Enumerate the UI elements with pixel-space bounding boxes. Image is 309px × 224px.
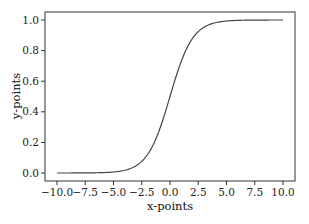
y-tick-label: 0.0 xyxy=(22,167,39,179)
x-tick-label: −5.0 xyxy=(101,186,127,198)
x-tick-label: −10.0 xyxy=(41,186,73,198)
x-tick-label: 7.5 xyxy=(246,186,263,198)
y-axis-label: y-points xyxy=(9,73,23,120)
x-tick-label: 5.0 xyxy=(218,186,235,198)
y-axis: 0.00.20.40.60.81.0 xyxy=(22,14,45,179)
y-tick-label: 0.8 xyxy=(22,44,39,56)
sigmoid-chart: 0.00.20.40.60.81.0 −10.0−7.5−5.0−2.50.02… xyxy=(0,0,309,224)
x-tick-label: 2.5 xyxy=(190,186,207,198)
y-tick-label: 0.2 xyxy=(22,136,39,148)
y-tick-label: 1.0 xyxy=(22,14,39,26)
x-tick-label: −7.5 xyxy=(73,186,99,198)
x-tick-label: 0.0 xyxy=(162,186,179,198)
y-tick-label: 0.4 xyxy=(22,105,39,117)
x-axis: −10.0−7.5−5.0−2.50.02.55.07.510.0 xyxy=(41,181,295,198)
x-tick-label: −2.5 xyxy=(129,186,155,198)
x-axis-label: x-points xyxy=(147,199,193,213)
y-tick-label: 0.6 xyxy=(22,75,39,87)
x-tick-label: 10.0 xyxy=(271,186,294,198)
